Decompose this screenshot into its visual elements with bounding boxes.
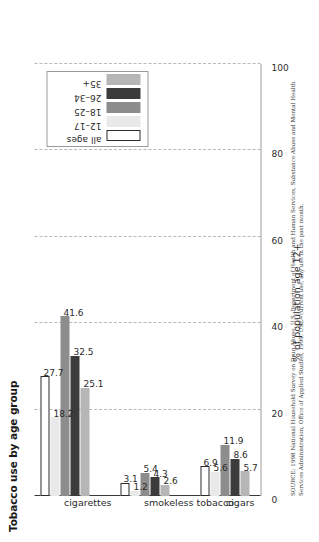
legend-item-12-17[interactable]: 12–17 — [47, 116, 147, 130]
gridline-80 — [34, 149, 260, 150]
bar-cigars-12-17[interactable] — [210, 472, 219, 496]
legend-swatch-35-plus — [106, 74, 140, 85]
bar-cigars-35-plus[interactable] — [240, 471, 249, 496]
chart-figure: Tobacco use by age group 27.7 18.2 41.6 … — [0, 0, 319, 542]
legend-item-26-34[interactable]: 26–34 — [47, 88, 147, 102]
bar-smokeless-35-plus[interactable] — [160, 485, 169, 496]
legend-label-18-25: 18–25 — [74, 107, 101, 117]
legend: all ages 12–17 18–25 26–34 35+ — [46, 71, 148, 147]
tick-label-0: 0 — [271, 495, 277, 505]
tick-label-100: 100 — [271, 63, 288, 73]
bar-smokeless-all-ages[interactable] — [120, 483, 129, 496]
value-label-cigars-26-34: 8.6 — [233, 450, 247, 460]
category-axis-line — [260, 64, 261, 496]
gridline-60 — [34, 236, 260, 237]
legend-swatch-26-34 — [106, 88, 140, 99]
legend-swatch-18-25 — [106, 102, 140, 113]
tick-label-60: 60 — [271, 236, 282, 246]
value-label-cigarettes-all-ages: 27.7 — [43, 368, 63, 378]
legend-item-18-25[interactable]: 18–25 — [47, 102, 147, 116]
bar-cigarettes-35-plus[interactable] — [80, 388, 89, 496]
legend-label-26-34: 26–34 — [74, 93, 101, 103]
bar-cigarettes-all-ages[interactable] — [40, 376, 49, 496]
bar-cigarettes-18-25[interactable] — [60, 316, 69, 496]
bar-cigarettes-26-34[interactable] — [70, 356, 79, 496]
screenshot-canvas: Tobacco use by age group 27.7 18.2 41.6 … — [0, 0, 319, 542]
legend-swatch-all-ages — [106, 130, 140, 141]
legend-item-35-plus[interactable]: 35+ — [47, 74, 147, 88]
value-label-cigars-12-17: 5.6 — [213, 463, 227, 473]
value-label-cigarettes-18-25: 41.6 — [63, 308, 83, 318]
value-label-smokeless-12-17: 1.2 — [133, 482, 147, 492]
category-label-cigarettes: cigarettes — [64, 497, 112, 508]
category-label-smokeless-tobacco: smokeless tobacco — [144, 497, 234, 508]
bar-cigars-all-ages[interactable] — [200, 466, 209, 496]
bar-smokeless-26-34[interactable] — [150, 477, 159, 496]
legend-label-all-ages: all ages — [66, 135, 101, 145]
source-note: SOURCE: 1998 National Household Survey o… — [288, 56, 304, 496]
value-label-cigars-35-plus: 5.7 — [243, 463, 257, 473]
legend-item-all-ages[interactable]: all ages — [47, 130, 147, 144]
legend-label-35-plus: 35+ — [82, 79, 101, 89]
tick-label-20: 20 — [271, 409, 282, 419]
value-label-smokeless-35-plus: 2.6 — [163, 476, 177, 486]
tick-label-80: 80 — [271, 149, 282, 159]
legend-label-12-17: 12–17 — [74, 121, 101, 131]
legend-swatch-12-17 — [106, 116, 140, 127]
gridline-100 — [34, 63, 260, 64]
value-label-cigarettes-26-34: 32.5 — [73, 347, 93, 357]
category-label-cigars: cigars — [226, 497, 255, 508]
tick-label-40: 40 — [271, 322, 282, 332]
value-label-cigarettes-35-plus: 25.1 — [83, 379, 103, 389]
value-label-cigars-18-25: 11.9 — [223, 436, 243, 446]
value-label-cigarettes-12-17: 18.2 — [53, 409, 73, 419]
chart-title: Tobacco use by age group — [6, 381, 18, 532]
bar-cigarettes-12-17[interactable] — [50, 417, 59, 496]
bar-cigars-26-34[interactable] — [230, 459, 239, 496]
